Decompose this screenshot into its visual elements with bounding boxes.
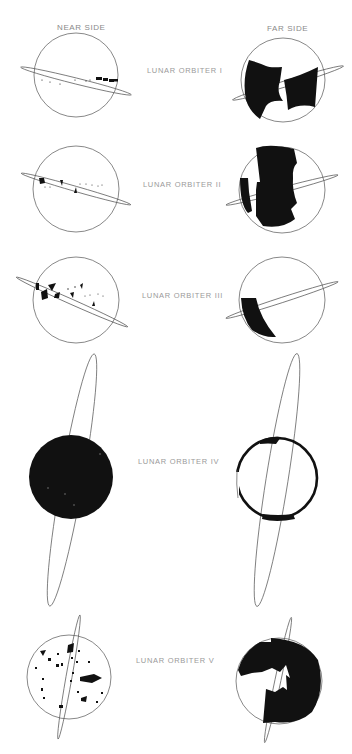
orbiter-2-far-side: [225, 146, 338, 233]
orbiter-4-near-side: [29, 352, 113, 608]
orbiter-3-near-side: [15, 257, 129, 343]
orbiter-5-near-side: [27, 614, 111, 739]
orbiter-3-far-side: [225, 257, 339, 343]
orbiter-2-near-side: [20, 146, 131, 232]
orbiter-1-near-side: [20, 33, 132, 117]
orbiter-1-far-side: [232, 38, 345, 122]
orbiter-5-far-side: [236, 617, 322, 743]
orbiter-4-far-side: [234, 352, 317, 608]
lunar-coverage-diagram: [0, 0, 352, 754]
